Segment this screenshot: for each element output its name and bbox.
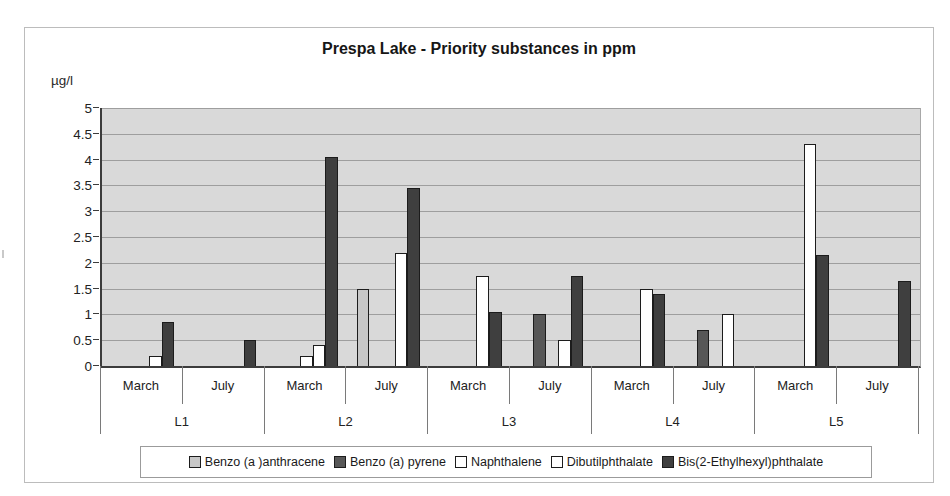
legend-item: Benzo (a) pyrene — [334, 455, 446, 469]
legend-label: Naphthalene — [471, 455, 542, 469]
bar — [558, 340, 571, 366]
group-boundary-tick — [754, 366, 755, 434]
gridline — [102, 134, 920, 135]
month-label: March — [591, 378, 673, 393]
bar — [162, 322, 175, 366]
legend-swatch — [551, 456, 563, 468]
group-label: L4 — [591, 414, 755, 429]
y-axis-tick — [93, 339, 99, 340]
bar — [640, 289, 653, 366]
month-label: July — [673, 378, 755, 393]
bar — [325, 157, 338, 366]
bar — [533, 314, 546, 366]
category-boundary-tick — [182, 366, 183, 404]
gridline — [102, 160, 920, 161]
y-axis-tick — [93, 107, 99, 108]
y-tick-label: 2.5 — [50, 230, 92, 245]
chart-figure: Prespa Lake - Priority substances in ppm… — [24, 27, 934, 483]
gridline — [102, 314, 920, 315]
category-boundary-tick — [673, 366, 674, 404]
bar — [313, 345, 326, 366]
category-boundary-tick — [345, 366, 346, 404]
bar — [244, 340, 257, 366]
month-label: March — [427, 378, 509, 393]
y-axis-tick — [93, 210, 99, 211]
month-label: July — [509, 378, 591, 393]
gridline — [102, 340, 920, 341]
chart-title: Prespa Lake - Priority substances in ppm — [25, 40, 933, 58]
y-tick-label: 0.5 — [50, 333, 92, 348]
legend-item: Bis(2-Ethylhexyl)phthalate — [662, 455, 823, 469]
month-label: July — [836, 378, 918, 393]
group-boundary-tick — [427, 366, 428, 434]
y-tick-label: 1 — [50, 307, 92, 322]
group-label: L5 — [754, 414, 918, 429]
y-axis-unit-label: µg/l — [51, 73, 73, 88]
y-tick-label: 1.5 — [50, 281, 92, 296]
gridline — [102, 185, 920, 186]
bar — [395, 253, 408, 367]
legend-item: Dibutilphthalate — [551, 455, 653, 469]
month-label: March — [100, 378, 182, 393]
y-tick-label: 4.5 — [50, 126, 92, 141]
plot-area — [100, 108, 921, 368]
bar — [149, 356, 162, 366]
month-label: March — [264, 378, 346, 393]
y-axis-tick — [93, 236, 99, 237]
category-boundary-tick — [836, 366, 837, 404]
group-boundary-tick — [918, 366, 919, 434]
y-axis-tick — [93, 159, 99, 160]
legend-label: Benzo (a) pyrene — [350, 455, 446, 469]
legend-item: Benzo (a )anthracene — [189, 455, 325, 469]
legend-label: Dibutilphthalate — [567, 455, 653, 469]
legend-swatch — [334, 456, 346, 468]
group-label: L3 — [427, 414, 591, 429]
bar — [898, 281, 911, 366]
legend-label: Benzo (a )anthracene — [205, 455, 325, 469]
bar — [697, 330, 710, 366]
category-boundary-tick — [509, 366, 510, 404]
screenshot-root: Prespa Lake - Priority substances in ppm… — [0, 0, 950, 496]
scan-edge-artifact — [2, 250, 4, 258]
bar — [300, 356, 313, 366]
month-label: July — [345, 378, 427, 393]
month-label: July — [182, 378, 264, 393]
group-boundary-tick — [100, 366, 101, 434]
y-axis-tick — [93, 313, 99, 314]
legend-swatch — [455, 456, 467, 468]
y-tick-label: 0 — [50, 359, 92, 374]
bar — [571, 276, 584, 366]
y-tick-label: 2 — [50, 255, 92, 270]
bar — [407, 188, 420, 366]
group-label: L1 — [100, 414, 264, 429]
month-label: March — [754, 378, 836, 393]
gridline — [102, 211, 920, 212]
legend-swatch — [662, 456, 674, 468]
y-tick-label: 5 — [50, 101, 92, 116]
y-axis-tick — [93, 262, 99, 263]
legend-swatch — [189, 456, 201, 468]
gridline — [102, 289, 920, 290]
gridline — [102, 237, 920, 238]
group-boundary-tick — [591, 366, 592, 434]
gridline — [102, 263, 920, 264]
y-tick-label: 3.5 — [50, 178, 92, 193]
y-tick-label: 4 — [50, 152, 92, 167]
legend-item: Naphthalene — [455, 455, 542, 469]
group-label: L2 — [264, 414, 428, 429]
bar — [816, 255, 829, 366]
legend-label: Bis(2-Ethylhexyl)phthalate — [678, 455, 823, 469]
y-tick-label: 3 — [50, 204, 92, 219]
bar — [476, 276, 489, 366]
bar — [804, 144, 817, 366]
bar — [722, 314, 735, 366]
y-axis-tick — [93, 365, 99, 366]
y-axis-tick — [93, 133, 99, 134]
legend: Benzo (a )anthraceneBenzo (a) pyreneNaph… — [140, 446, 872, 478]
y-axis-tick — [93, 184, 99, 185]
bar — [489, 312, 502, 366]
group-boundary-tick — [264, 366, 265, 434]
y-axis-tick — [93, 288, 99, 289]
bar — [357, 289, 370, 366]
gridline — [102, 108, 920, 109]
